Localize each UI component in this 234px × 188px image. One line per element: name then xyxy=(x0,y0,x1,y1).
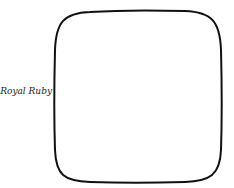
shape-outline xyxy=(54,10,222,182)
shape-label: Royal Ruby xyxy=(0,85,52,97)
